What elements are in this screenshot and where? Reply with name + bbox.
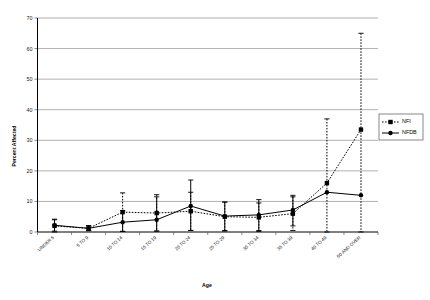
chart-legend: NFINFDB [379,114,423,140]
data-point-nfdb[interactable] [52,223,56,227]
legend-marker-nfdb [388,131,392,135]
data-point-nfdb[interactable] [120,220,124,224]
y-tick-label: 0 [30,229,33,235]
data-point-nfdb[interactable] [154,218,158,222]
data-point-nfdb[interactable] [257,213,261,217]
data-point-nfdb[interactable] [291,208,295,212]
x-axis-title: Age [202,282,212,288]
data-point-nfdb[interactable] [325,190,329,194]
line-chart: 010203040506070 UNDER 55 TO 910 TO 1415 … [0,0,430,300]
y-tick-label: 50 [27,76,33,82]
chart-container: 010203040506070 UNDER 55 TO 910 TO 1415 … [0,0,430,300]
data-point-nfdb[interactable] [223,214,227,218]
y-tick-label: 10 [27,198,33,204]
y-tick-label: 20 [27,168,33,174]
legend-label-nfi: NFI [402,118,411,124]
y-tick-label: 30 [27,137,33,143]
data-point-nfdb[interactable] [86,226,90,230]
data-point-nfdb[interactable] [189,204,193,208]
data-point-nfi[interactable] [325,181,329,185]
y-tick-label: 40 [27,107,33,113]
data-point-nfdb[interactable] [359,193,363,197]
y-axis-title: Percent Affected [11,125,17,166]
legend-label-nfdb: NFDB [402,129,417,135]
y-tick-label: 70 [27,15,33,21]
legend-marker-nfi [388,120,392,124]
y-tick-label: 60 [27,46,33,52]
chart-background [0,0,430,300]
data-point-nfi[interactable] [359,127,363,131]
legend-box [379,114,423,140]
